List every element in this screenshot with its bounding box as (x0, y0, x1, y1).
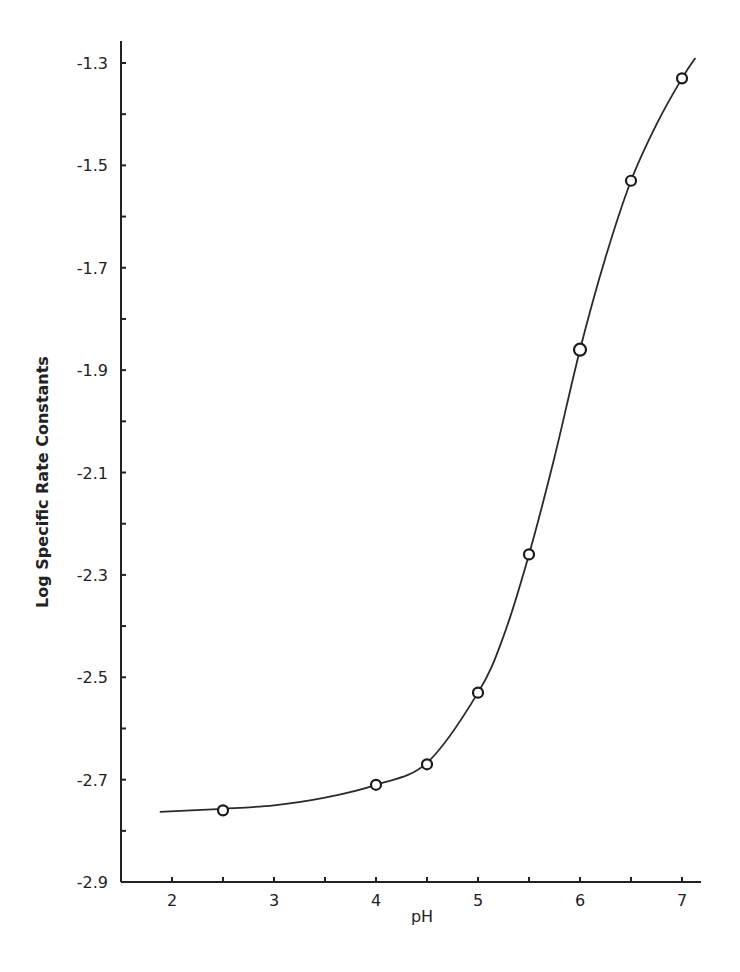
x-tick-label: 4 (371, 891, 381, 910)
data-point-marker (626, 176, 636, 186)
y-tick-label: -2.5 (77, 668, 108, 687)
chart-canvas: -1.3-1.5-1.7-1.9-2.1-2.3-2.5-2.7-2.9 234… (0, 0, 740, 972)
data-point-marker (473, 688, 483, 698)
fitted-curve (160, 58, 696, 812)
data-point-marker (371, 780, 381, 790)
data-point-marker (574, 344, 586, 356)
data-point-marker (524, 549, 534, 559)
y-tick-label: -2.1 (77, 464, 108, 483)
x-axis: 234567 (121, 877, 701, 910)
y-axis-title: Log Specific Rate Constants (33, 356, 52, 608)
x-tick-label: 3 (269, 891, 279, 910)
x-tick-label: 6 (575, 891, 585, 910)
y-tick-label: -1.3 (77, 54, 108, 73)
x-tick-label: 5 (473, 891, 483, 910)
y-tick-label: -2.7 (77, 771, 108, 790)
x-axis-title: pH (411, 907, 433, 926)
fitted-curve-path (160, 58, 696, 812)
data-point-marker (422, 759, 432, 769)
y-axis: -1.3-1.5-1.7-1.9-2.1-2.3-2.5-2.7-2.9 (77, 41, 126, 892)
y-tick-label: -2.3 (77, 566, 108, 585)
y-tick-label: -1.9 (77, 361, 108, 380)
data-point-marker (677, 73, 687, 83)
x-tick-label: 2 (167, 891, 177, 910)
data-point-marker (218, 805, 228, 815)
x-tick-label: 7 (677, 891, 687, 910)
y-tick-label: -1.5 (77, 156, 108, 175)
data-points (218, 73, 687, 815)
y-tick-label: -1.7 (77, 259, 108, 278)
y-tick-label: -2.9 (77, 873, 108, 892)
